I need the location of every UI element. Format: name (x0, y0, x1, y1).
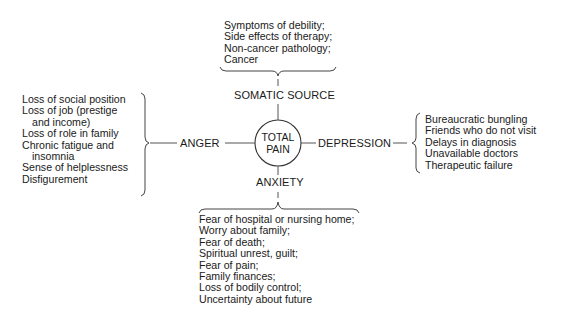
anger-list: Loss of social position Loss of job (pre… (22, 94, 128, 185)
total-pain-diagram: TOTAL PAIN SOMATIC SOURCE ANGER DEPRESSI… (0, 0, 564, 331)
node-somatic-source: SOMATIC SOURCE (234, 89, 335, 101)
depression-list: Bureaucratic bungling Friends who do not… (425, 114, 536, 171)
node-anger: ANGER (180, 137, 220, 149)
depression-brace (412, 113, 420, 173)
somatic-source-list: Symptoms of debility; Side effects of th… (224, 20, 332, 66)
anxiety-brace (199, 202, 359, 213)
center-label: TOTAL PAIN (255, 131, 301, 155)
node-depression: DEPRESSION (318, 137, 391, 149)
list-item: Therapeutic failure (425, 160, 536, 171)
list-item: Unavailable doctors (425, 148, 536, 159)
node-anxiety: ANXIETY (256, 176, 304, 188)
list-item: Loss of role in family (22, 128, 128, 139)
somatic-brace (220, 67, 336, 76)
center-label-line1: TOTAL (255, 131, 301, 143)
anger-brace (141, 93, 149, 196)
list-item: Spiritual unrest, guilt; (199, 248, 354, 259)
list-item: Cancer (224, 54, 332, 65)
list-item: Disfigurement (22, 174, 128, 185)
anxiety-list: Fear of hospital or nursing home; Worry … (199, 214, 354, 305)
center-label-line2: PAIN (255, 143, 301, 155)
list-item: Uncertainty about future (199, 294, 354, 305)
